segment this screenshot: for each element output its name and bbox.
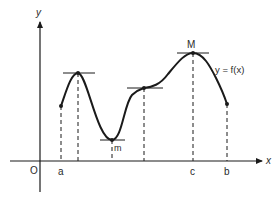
- tick-label-c: c: [190, 166, 195, 177]
- point-min-m: [110, 138, 114, 142]
- point-b-end: [225, 102, 229, 106]
- tangent-lines: [63, 53, 209, 140]
- origin-label: O: [30, 165, 38, 176]
- drop-lines: [61, 53, 227, 161]
- function-graph-diagram: y x O a c b m M y = f(x): [0, 0, 280, 198]
- tick-label-a: a: [58, 166, 64, 177]
- min-label-m: m: [114, 143, 122, 153]
- function-label: y = f(x): [215, 64, 244, 75]
- point-first-max: [76, 71, 80, 75]
- tick-label-b: b: [224, 166, 230, 177]
- y-axis-label: y: [35, 7, 42, 18]
- point-max-M: [191, 51, 195, 55]
- x-axis-label: x: [265, 155, 272, 166]
- max-label-M: M: [187, 39, 195, 50]
- point-a-start: [59, 104, 63, 108]
- point-inflection: [142, 86, 146, 90]
